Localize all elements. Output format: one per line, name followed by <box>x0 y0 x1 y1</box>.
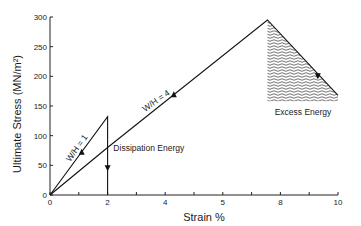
excess-energy-region <box>267 20 338 101</box>
y-tick-label: 50 <box>38 161 47 170</box>
stress-strain-chart: 0245810050100150200250300Strain %Ultimat… <box>0 0 361 226</box>
y-tick-label: 0 <box>43 191 48 200</box>
x-tick-label: 5 <box>221 198 226 207</box>
y-tick-label: 200 <box>34 72 48 81</box>
plot-area: 0245810050100150200250300Strain %Ultimat… <box>11 13 343 223</box>
x-tick-label: 8 <box>278 198 283 207</box>
x-tick-label: 10 <box>334 198 343 207</box>
y-axis-title: Ultimate Stress (MN/m²) <box>11 55 23 173</box>
arrow-up-icon <box>171 91 177 97</box>
annotation-excess-energy: Excess Energy <box>275 107 332 117</box>
annotation-dissipation-energy: Dissipation Energy <box>113 143 185 153</box>
series-line-wh1 <box>50 117 108 195</box>
x-tick-label: 0 <box>48 198 53 207</box>
arrow-down-icon <box>105 165 111 171</box>
y-tick-label: 150 <box>34 102 48 111</box>
y-tick-label: 100 <box>34 132 48 141</box>
y-tick-label: 250 <box>34 43 48 52</box>
x-axis-title: Strain % <box>183 211 225 223</box>
x-tick-label: 4 <box>163 198 168 207</box>
y-tick-label: 300 <box>34 13 48 22</box>
x-tick-label: 2 <box>105 198 110 207</box>
